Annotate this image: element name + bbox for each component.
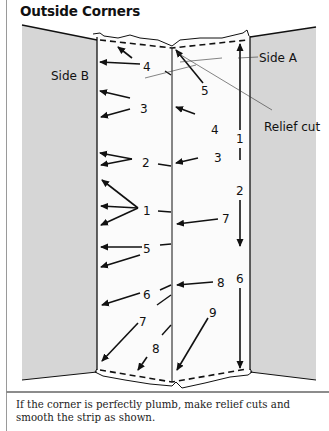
caption-divider [6,391,329,393]
strip-side-a [172,33,250,385]
num-left-2: 2 [142,156,150,170]
label-relief-cut: Relief cut [264,120,320,134]
num-right-7: 7 [222,212,230,226]
num-left-6: 6 [143,288,151,302]
right-wall [250,27,316,380]
num-left-7: 7 [139,315,147,329]
num-vert-6: 6 [236,272,244,286]
num-left-8: 8 [152,342,160,356]
num-right-8: 8 [217,276,225,290]
num-vert-2: 2 [236,184,244,198]
label-side-b: Side B [51,69,89,83]
num-vert-1: 1 [236,132,244,146]
figure-caption: If the corner is perfectly plumb, make r… [16,398,321,424]
outside-corner-diagram: Side B Side A Relief cut 4 3 2 1 5 6 7 8… [0,0,329,392]
label-side-a: Side A [259,51,298,65]
num-right-3: 3 [214,151,222,165]
num-left-3: 3 [140,102,148,116]
num-right-9: 9 [209,306,217,320]
num-left-1: 1 [143,204,151,218]
num-left-4: 4 [143,60,151,74]
num-left-5: 5 [143,242,151,256]
num-right-4: 4 [211,123,219,137]
num-right-5: 5 [201,84,209,98]
